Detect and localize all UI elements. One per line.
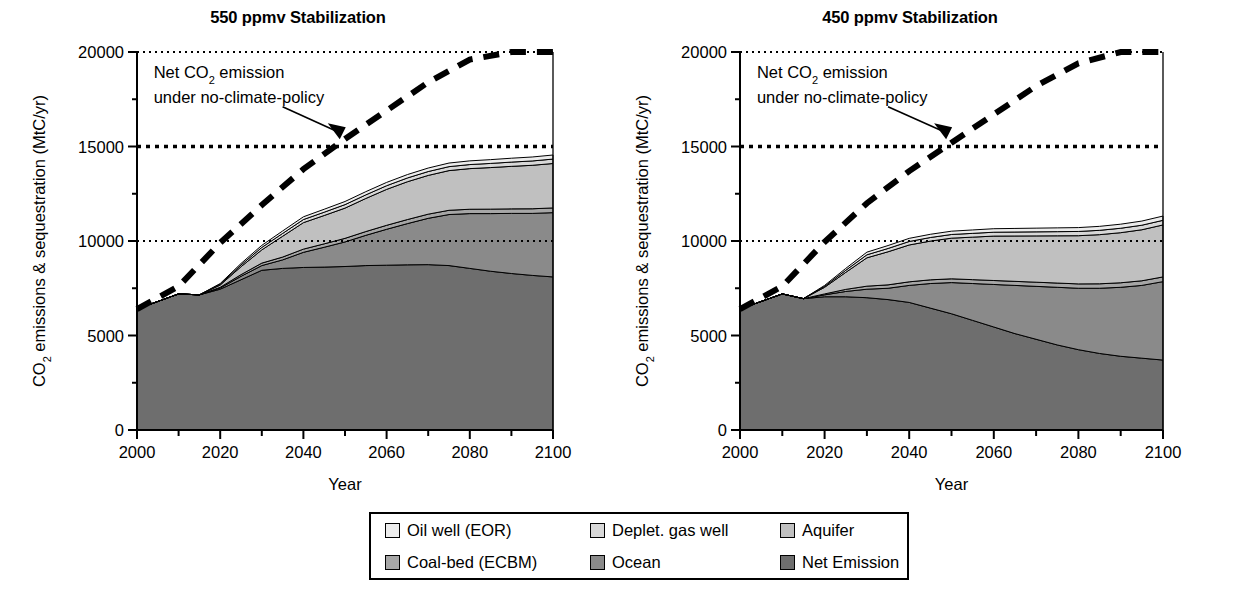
legend-swatch-oil-well <box>385 523 400 538</box>
x-axis-label: Year <box>935 475 969 493</box>
y-ticks: 05000100001500020000 <box>78 43 137 439</box>
legend-swatch-aquifer <box>780 523 795 538</box>
figure-root: 550 ppmv Stabilization 05000100001500020… <box>0 0 1240 613</box>
y-tick-label: 0 <box>115 421 124 439</box>
legend-swatch-ocean <box>590 555 605 570</box>
y-tick-label: 5000 <box>690 327 727 345</box>
legend-item-net-emission[interactable]: Net Emission <box>780 546 899 578</box>
legend: Oil well (EOR) Deplet. gas well Aquifer … <box>369 512 909 580</box>
legend-item-deplet-gas-well[interactable]: Deplet. gas well <box>590 514 780 546</box>
legend-label-coal-bed: Coal-bed (ECBM) <box>407 553 537 572</box>
chart-panel-450: 450 ppmv Stabilization 05000100001500020… <box>620 0 1240 500</box>
x-tick-label: 2040 <box>285 443 322 461</box>
svg-text:CO2 emissions & sequestration: CO2 emissions & sequestration (MtC/yr) <box>30 95 53 387</box>
x-tick-label: 2060 <box>975 443 1012 461</box>
y-axis-label: CO2 emissions & sequestration (MtC/yr) <box>633 95 656 387</box>
x-tick-label: 2020 <box>806 443 843 461</box>
legend-label-net-emission: Net Emission <box>802 553 899 572</box>
legend-label-deplet-gas-well: Deplet. gas well <box>612 521 728 540</box>
y-axis-label: CO2 emissions & sequestration (MtC/yr) <box>30 95 53 387</box>
legend-item-coal-bed[interactable]: Coal-bed (ECBM) <box>385 546 590 578</box>
annotation-line-2: under no-climate-policy <box>757 88 928 106</box>
legend-label-ocean: Ocean <box>612 553 661 572</box>
x-ticks: 200020202040206020802100 <box>722 430 1182 461</box>
y-tick-label: 10000 <box>78 232 124 250</box>
y-tick-label: 10000 <box>681 232 727 250</box>
y-tick-label: 15000 <box>681 138 727 156</box>
legend-swatch-coal-bed <box>385 555 400 570</box>
annotation-line-2: under no-climate-policy <box>154 88 325 106</box>
y-ticks: 05000100001500020000 <box>681 43 740 439</box>
plot-area: 0500010000150002000020002020204020602080… <box>0 0 620 500</box>
x-tick-label: 2000 <box>119 443 156 461</box>
y-tick-label: 15000 <box>78 138 124 156</box>
legend-item-ocean[interactable]: Ocean <box>590 546 780 578</box>
plot-area: 0500010000150002000020002020204020602080… <box>620 0 1240 500</box>
y-tick-label: 20000 <box>78 43 124 61</box>
x-axis-label: Year <box>328 475 362 493</box>
y-tick-label: 5000 <box>87 327 124 345</box>
x-tick-label: 2080 <box>451 443 488 461</box>
legend-label-aquifer: Aquifer <box>802 521 854 540</box>
x-tick-label: 2040 <box>891 443 928 461</box>
chart-panel-550: 550 ppmv Stabilization 05000100001500020… <box>0 0 620 500</box>
y-tick-label: 0 <box>718 421 727 439</box>
x-ticks: 200020202040206020802100 <box>119 430 572 461</box>
legend-label-oil-well: Oil well (EOR) <box>407 521 512 540</box>
legend-item-aquifer[interactable]: Aquifer <box>780 514 899 546</box>
legend-swatch-deplet-gas-well <box>590 523 605 538</box>
x-tick-label: 2080 <box>1060 443 1097 461</box>
x-tick-label: 2000 <box>722 443 759 461</box>
x-tick-label: 2020 <box>202 443 239 461</box>
x-tick-label: 2100 <box>1145 443 1182 461</box>
x-tick-label: 2060 <box>368 443 405 461</box>
y-tick-label: 20000 <box>681 43 727 61</box>
legend-swatch-net-emission <box>780 555 795 570</box>
x-tick-label: 2100 <box>535 443 572 461</box>
svg-text:CO2 emissions & sequestration: CO2 emissions & sequestration (MtC/yr) <box>633 95 656 387</box>
legend-item-oil-well[interactable]: Oil well (EOR) <box>385 514 590 546</box>
